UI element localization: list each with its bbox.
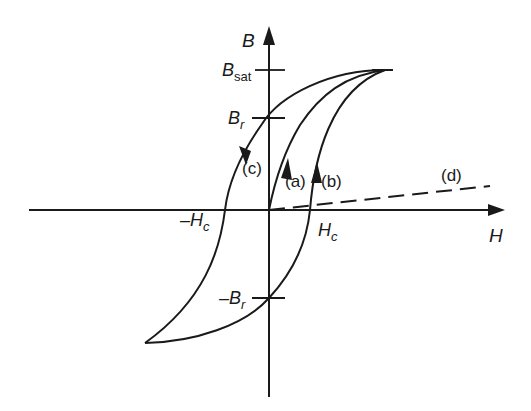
curve-label-c: (c) <box>242 159 262 178</box>
b-sat-label: Bsat <box>222 60 252 84</box>
b-axis-arrow-icon <box>263 26 275 45</box>
b-axis <box>263 26 275 397</box>
curve-label-d: (d) <box>441 166 462 185</box>
b-r-label: Br <box>228 108 245 132</box>
curve-label-b: (b) <box>321 172 342 191</box>
neg-h-c-label: –Hc <box>179 210 210 234</box>
neg-b-r-label: –Br <box>218 288 246 312</box>
curve-ascending-branch <box>145 70 385 343</box>
h-axis <box>29 204 505 216</box>
h-axis-arrow-icon <box>488 204 505 216</box>
h-c-label: Hc <box>318 220 338 244</box>
h-axis-label: H <box>489 225 503 246</box>
curve-label-a: (a) <box>285 172 306 191</box>
hysteresis-diagram: B H Bsat Br –Br Hc –Hc (a) (b) (c) (d) <box>0 0 531 411</box>
b-axis-label: B <box>242 30 255 51</box>
